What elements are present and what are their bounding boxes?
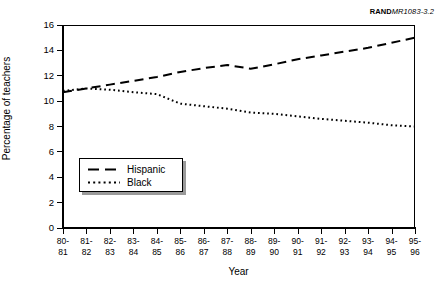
legend-label-hispanic: Hispanic — [127, 164, 165, 175]
legend-item-hispanic: Hispanic — [87, 163, 165, 176]
chart-legend: Hispanic Black — [79, 158, 183, 192]
series-line-hispanic — [63, 38, 415, 93]
legend-label-black: Black — [127, 177, 151, 188]
legend-item-black: Black — [87, 176, 151, 189]
legend-swatch-dotted — [87, 177, 121, 188]
chart-figure: RANDMR1083-3.2 Percentage of teachers 02… — [0, 0, 446, 291]
x-axis-title: Year — [62, 266, 415, 278]
series-layer — [0, 0, 446, 291]
legend-swatch-dashed — [87, 164, 121, 175]
series-line-black — [63, 88, 415, 126]
